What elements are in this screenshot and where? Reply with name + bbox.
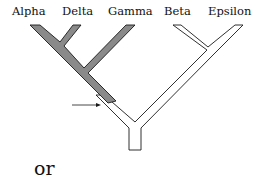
phylogenetic-tree (0, 0, 257, 183)
shaded-clade (30, 25, 135, 103)
unshaded-branches (96, 25, 243, 150)
caption-or: or (34, 157, 55, 179)
arrow-icon (72, 103, 101, 107)
